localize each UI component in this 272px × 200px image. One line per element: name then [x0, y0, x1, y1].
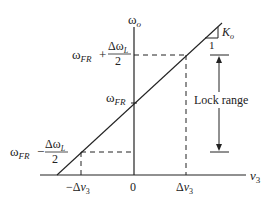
y-axis-label: ωo: [128, 12, 142, 29]
svg-text:ωFR: ωFR: [72, 47, 92, 64]
pos-x-tick-label: Δv3: [176, 180, 193, 196]
svg-text:+: +: [99, 47, 106, 62]
upper-y-tick-label: ωFR + ΔωL 2: [72, 39, 131, 68]
lower-y-tick-label: ωFR − ΔωL 2: [10, 137, 68, 166]
center-y-tick-label: ωFR: [106, 90, 126, 107]
svg-text:ΔωL: ΔωL: [108, 39, 129, 55]
slope-label: Ko: [221, 25, 234, 41]
svg-text:2: 2: [115, 54, 121, 68]
svg-text:−: −: [37, 144, 44, 159]
svg-text:ωFR: ωFR: [10, 144, 30, 161]
lock-range-label: Lock range: [194, 93, 248, 107]
neg-x-tick-label: −Δv3: [66, 180, 90, 196]
svg-text:2: 2: [52, 152, 58, 166]
slope-run-label: 1: [209, 39, 215, 51]
svg-text:ΔωL: ΔωL: [45, 137, 66, 153]
vco-diagram: ωo v3 0 ωFR + ΔωL 2 ωFR ωFR − ΔωL 2 −Δv3…: [0, 0, 272, 200]
origin-label: 0: [130, 180, 136, 194]
x-axis-label: v3: [250, 168, 261, 185]
lock-range-down-arrowhead: [216, 144, 222, 151]
lock-range-up-arrowhead: [216, 56, 222, 63]
